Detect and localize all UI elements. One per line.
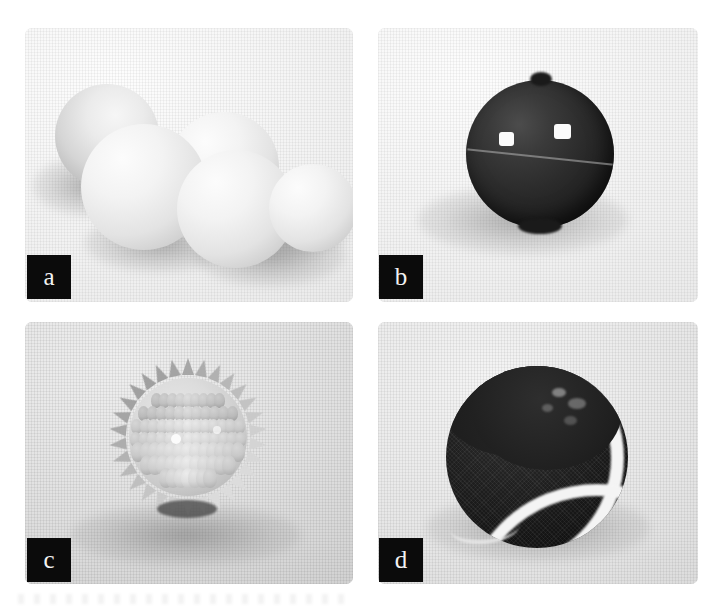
scuff-mark (564, 416, 577, 425)
scuff-mark (568, 398, 586, 409)
specular-highlight (171, 434, 181, 444)
figure-plate: a b c d (0, 0, 722, 612)
spike-tip (222, 455, 236, 475)
figure-panel-a[interactable] (25, 28, 353, 302)
panel-label-c: c (27, 538, 71, 582)
figure-panel-c[interactable] (25, 322, 353, 584)
specular-highlight (499, 132, 514, 146)
spike (109, 423, 127, 437)
page-scan-artifact (18, 594, 348, 604)
spike-tip (203, 468, 217, 488)
panel-label-a: a (27, 255, 71, 299)
spike (245, 407, 265, 424)
dark-glossy-ball (466, 80, 614, 228)
figure-panel-b[interactable] (378, 28, 698, 302)
scuff-mark (542, 404, 553, 412)
pale-sphere (269, 164, 353, 252)
specular-highlight (554, 124, 571, 139)
spike (249, 438, 267, 452)
figure-panel-d[interactable] (378, 322, 698, 584)
spike (249, 423, 267, 437)
spike (166, 358, 181, 377)
panel-label-d: d (379, 538, 423, 582)
spike (109, 438, 127, 452)
panel-label-b: b (379, 255, 423, 299)
spike-field (129, 378, 247, 496)
ball-stem-nub (530, 72, 552, 86)
ball-base-shadow (157, 500, 217, 518)
ball-base-nub (518, 218, 562, 234)
specular-highlight (213, 426, 221, 434)
scuff-mark (552, 388, 566, 397)
spike (182, 358, 194, 375)
